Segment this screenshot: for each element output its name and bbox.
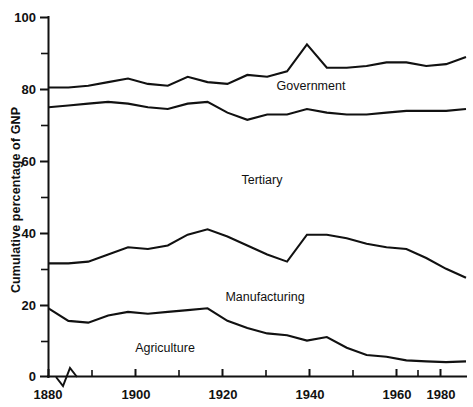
annotation-manufacturing: Manufacturing bbox=[225, 290, 304, 304]
chart-figure: Cumulative percentage of GNP 100 80 60 4… bbox=[0, 0, 473, 407]
y-tick-label-40: 40 bbox=[22, 226, 36, 241]
series-lines bbox=[49, 44, 467, 362]
y-tick-label-60: 60 bbox=[22, 154, 36, 169]
x-tick-label-1960: 1960 bbox=[383, 387, 412, 402]
series-line-agriculture bbox=[49, 308, 467, 362]
y-axis-title: Cumulative percentage of GNP bbox=[9, 107, 23, 293]
annotation-government: Government bbox=[277, 79, 346, 93]
series-annotations: Government Tertiary Manufacturing Agricu… bbox=[135, 79, 346, 355]
annotation-tertiary: Tertiary bbox=[242, 173, 284, 187]
series-line-government bbox=[49, 44, 467, 87]
y-tick-label-100: 100 bbox=[14, 10, 36, 25]
y-tick-label-0: 0 bbox=[29, 369, 36, 384]
x-axis-tick-labels: 1880 1900 1920 1940 1960 1980 bbox=[34, 387, 456, 402]
y-tick-label-20: 20 bbox=[22, 298, 36, 313]
y-tick-label-80: 80 bbox=[22, 82, 36, 97]
y-axis-ticks bbox=[40, 18, 48, 377]
series-line-tertiary bbox=[49, 102, 467, 120]
x-tick-label-1900: 1900 bbox=[122, 387, 151, 402]
series-line-manufacturing bbox=[49, 229, 467, 277]
x-tick-label-1940: 1940 bbox=[296, 387, 325, 402]
x-tick-label-1920: 1920 bbox=[209, 387, 238, 402]
chart-plot-area: Cumulative percentage of GNP 100 80 60 4… bbox=[0, 0, 473, 407]
x-tick-label-1980: 1980 bbox=[427, 387, 456, 402]
x-tick-label-1880: 1880 bbox=[34, 387, 63, 402]
annotation-agriculture: Agriculture bbox=[135, 341, 195, 355]
